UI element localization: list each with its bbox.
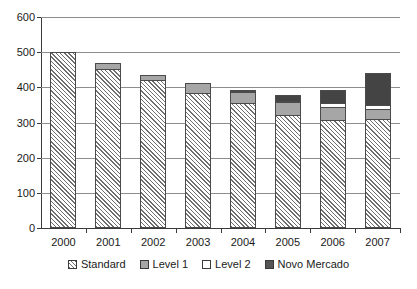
x-axis-label-2007: 2007 xyxy=(365,236,389,248)
stacked-bar[interactable] xyxy=(365,74,391,228)
bar-slot-2005 xyxy=(265,17,310,228)
legend-label: Novo Mercado xyxy=(278,258,350,270)
x-axis-label-2003: 2003 xyxy=(186,236,210,248)
legend-item-novo-mercado[interactable]: Novo Mercado xyxy=(265,258,350,270)
y-axis-tick-label: 200 xyxy=(17,152,35,163)
stacked-bar[interactable] xyxy=(50,53,76,228)
x-axis-label-2006: 2006 xyxy=(320,236,344,248)
stacked-bar[interactable] xyxy=(95,64,121,228)
white-swatch xyxy=(202,260,211,269)
chart-legend: StandardLevel 1Level 2Novo Mercado xyxy=(0,258,417,270)
bar-segment-level-1 xyxy=(275,102,301,116)
x-axis-label-2004: 2004 xyxy=(231,236,255,248)
stacked-bar[interactable] xyxy=(320,91,346,228)
x-axis-tick xyxy=(86,228,87,233)
bar-segment-novo-mercado xyxy=(320,90,346,104)
stacked-bar[interactable] xyxy=(275,96,301,228)
bar-segment-level-1 xyxy=(320,107,346,121)
x-axis-tick xyxy=(355,228,356,233)
x-axis-label-2000: 2000 xyxy=(51,236,75,248)
x-axis-tick xyxy=(265,228,266,233)
y-axis-tick-label: 300 xyxy=(17,117,35,128)
bar-series-group xyxy=(41,17,400,228)
y-axis-tick-label: 100 xyxy=(17,187,35,198)
legend-item-standard[interactable]: Standard xyxy=(68,258,126,270)
bar-segment-standard xyxy=(365,119,391,228)
bar-slot-2003 xyxy=(176,17,221,228)
y-axis-tick-label: 0 xyxy=(29,223,35,234)
bar-segment-standard xyxy=(185,93,211,228)
gray-swatch xyxy=(140,260,149,269)
legend-label: Level 2 xyxy=(215,258,250,270)
bar-slot-2001 xyxy=(86,17,131,228)
stacked-bar[interactable] xyxy=(140,76,166,228)
x-axis-label-2002: 2002 xyxy=(141,236,165,248)
legend-label: Standard xyxy=(81,258,126,270)
x-axis-tick xyxy=(176,228,177,233)
x-axis-tick xyxy=(400,228,401,233)
bar-slot-2006 xyxy=(310,17,355,228)
x-axis-tick xyxy=(221,228,222,233)
dark-swatch xyxy=(265,260,274,269)
bar-segment-standard xyxy=(275,115,301,228)
legend-item-level-2[interactable]: Level 2 xyxy=(202,258,250,270)
stacked-bar[interactable] xyxy=(185,84,211,228)
bar-segment-standard xyxy=(95,69,121,228)
stacked-bar[interactable] xyxy=(230,91,256,228)
x-axis-tick xyxy=(310,228,311,233)
hatched-swatch xyxy=(68,260,77,269)
bar-segment-standard xyxy=(50,52,76,228)
bar-chart: 0100200300400500600 20002001200220032004… xyxy=(0,0,417,289)
bar-segment-standard xyxy=(320,120,346,228)
y-axis-tick-label: 400 xyxy=(17,82,35,93)
x-axis-tick xyxy=(131,228,132,233)
x-axis-label-2001: 2001 xyxy=(96,236,120,248)
bar-slot-2000 xyxy=(41,17,86,228)
y-axis-tick-label: 500 xyxy=(17,47,35,58)
bar-segment-standard xyxy=(140,80,166,228)
legend-label: Level 1 xyxy=(153,258,188,270)
legend-item-level-1[interactable]: Level 1 xyxy=(140,258,188,270)
bar-slot-2007 xyxy=(355,17,400,228)
bar-segment-novo-mercado xyxy=(365,73,391,106)
y-axis-tick-label: 600 xyxy=(17,12,35,23)
bar-segment-standard xyxy=(230,103,256,228)
x-axis-label-2005: 2005 xyxy=(276,236,300,248)
plot-area: 0100200300400500600 xyxy=(41,17,400,228)
bar-slot-2002 xyxy=(131,17,176,228)
bar-slot-2004 xyxy=(221,17,266,228)
y-axis-tick xyxy=(37,228,41,229)
